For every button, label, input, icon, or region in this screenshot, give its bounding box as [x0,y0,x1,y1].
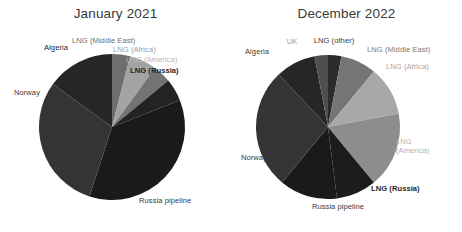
pie-january-2021 [0,0,231,232]
pie-label-lng-middle-east: LNG (Middle East) [367,45,430,54]
pie-label-russia-pipeline: Russia pipeline [139,196,191,205]
pie-label-lng-america: LNG (America) [396,137,438,155]
pie-label-algeria: Algeria [36,43,76,52]
pie-chart-figure: January 2021 LNG (Middle East) LNG (Afri… [0,0,462,232]
pie-label-lng-russia: LNG (Russia) [130,66,179,75]
pie-label-lng-middle-east: LNG (Middle East) [72,36,135,45]
pie-label-norway: Norway [0,88,40,97]
pie-label-algeria: Algeria [227,47,269,56]
pie-svg-january [0,0,231,232]
chart-panel-january-2021: January 2021 LNG (Middle East) LNG (Afri… [0,0,231,232]
pie-december-2022 [231,0,462,232]
pie-label-lng-russia: LNG (Russia) [371,184,420,193]
pie-label-norway: Norway [223,153,267,162]
pie-label-lng-africa: LNG (Africa) [386,62,429,71]
pie-label-lng-other: LNG (other) [306,36,362,45]
pie-label-russia-pipeline: Russia pipeline [303,202,373,211]
pie-label-lng-africa: LNG (Africa) [113,45,156,54]
pie-label-lng-america: LNG (America) [126,55,177,64]
pie-svg-december [231,0,462,232]
pie-label-uk: UK [281,37,303,46]
chart-panel-december-2022: December 2022 LNG (other) LNG (Middle Ea… [231,0,462,232]
